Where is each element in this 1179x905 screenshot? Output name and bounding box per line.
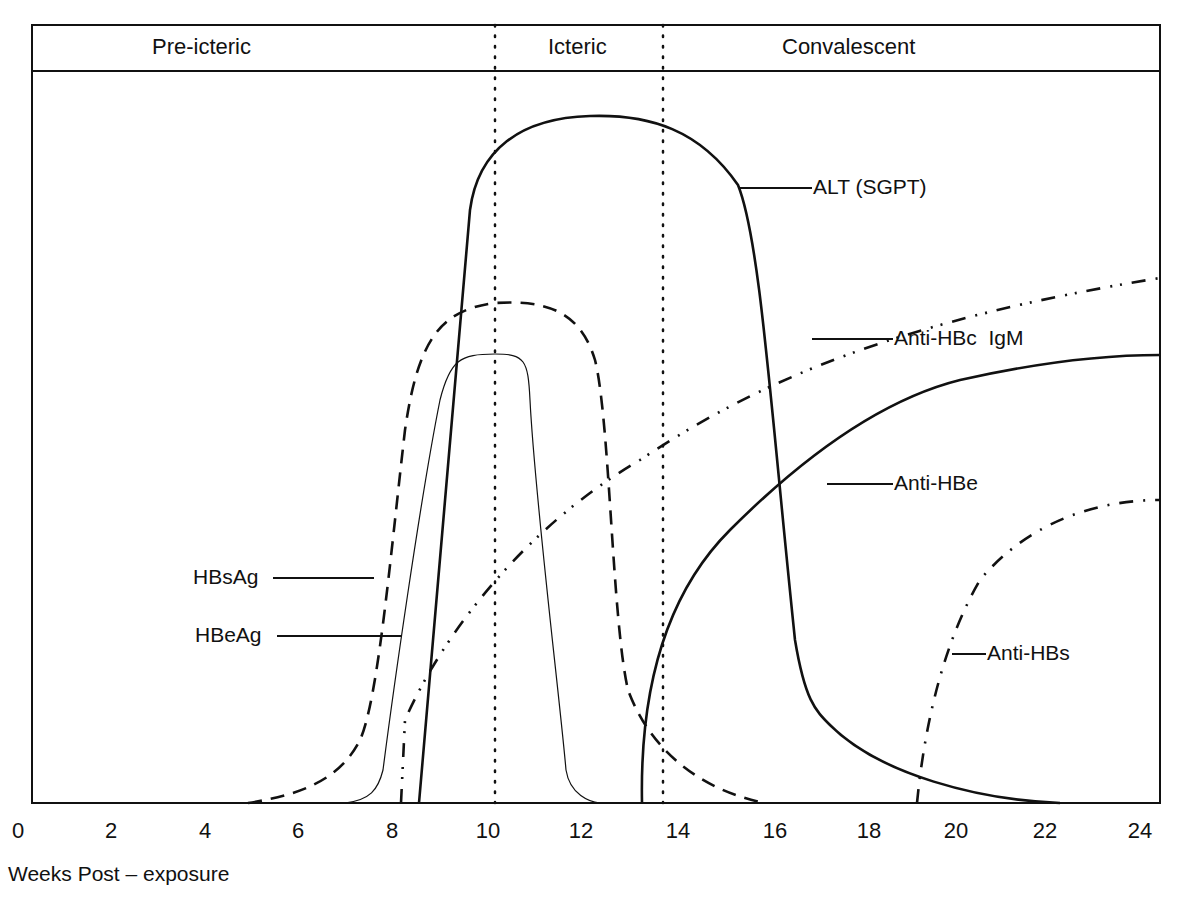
x-tick-4: 4 [199,818,211,844]
x-tick-18: 18 [857,818,881,844]
label-hbeag: HBeAg [195,623,262,647]
hbv-serology-diagram [0,0,1179,905]
phase-label-icteric: Icteric [548,34,607,60]
label-anti-hbs: Anti-HBs [987,641,1070,665]
curve-alt [419,116,1060,803]
plot-frame [32,25,1160,803]
label-anti-hbe: Anti-HBe [894,471,978,495]
curve-hbeag [345,354,600,803]
curve-anti-hbe [642,355,1160,803]
x-tick-22: 22 [1033,818,1057,844]
x-tick-10: 10 [476,818,500,844]
phase-label-pre-icteric: Pre-icteric [152,34,251,60]
x-tick-2: 2 [105,818,117,844]
x-tick-14: 14 [666,818,690,844]
curve-hbsag [248,303,765,803]
x-tick-8: 8 [386,818,398,844]
label-anti-hbc-igm: Anti-HBc IgM [894,326,1024,350]
x-tick-20: 20 [944,818,968,844]
x-tick-24: 24 [1128,818,1152,844]
label-alt: ALT (SGPT) [813,175,927,199]
label-hbsag: HBsAg [193,565,258,589]
phase-label-convalescent: Convalescent [782,34,915,60]
x-tick-12: 12 [569,818,593,844]
x-tick-16: 16 [763,818,787,844]
x-axis-title: Weeks Post – exposure [8,862,229,886]
x-tick-6: 6 [292,818,304,844]
x-tick-0: 0 [12,818,24,844]
